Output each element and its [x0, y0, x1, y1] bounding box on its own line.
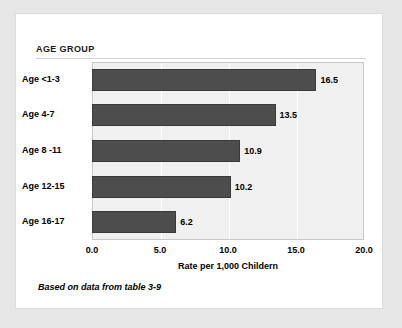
x-axis-tick-label: 10.0 [219, 245, 237, 255]
category-label: Age 12-15 [16, 181, 86, 191]
chart-footnote: Based on data from table 3-9 [38, 282, 161, 292]
x-axis-tick-label: 5.0 [154, 245, 167, 255]
bar-value-label: 10.2 [235, 182, 253, 192]
chart-page: AGE GROUP Age <1-3Age 4-7Age 8 -11Age 12… [0, 0, 402, 328]
x-axis-tick-label: 15.0 [287, 245, 305, 255]
bar-row: 16.5 [92, 62, 364, 98]
category-label: Age 16-17 [16, 216, 86, 226]
bar-row: 6.2 [92, 204, 364, 240]
bar-value-label: 6.2 [180, 217, 193, 227]
category-label: Age 8 -11 [16, 145, 86, 155]
bar-value-label: 16.5 [320, 75, 338, 85]
category-label: Age <1-3 [16, 74, 86, 84]
chart-card: AGE GROUP Age <1-3Age 4-7Age 8 -11Age 12… [16, 14, 382, 308]
bar-value-label: 13.5 [280, 110, 298, 120]
x-axis-tick-label: 20.0 [355, 245, 373, 255]
x-axis-tick-label: 0.0 [86, 245, 99, 255]
bar-chart: Age <1-3Age 4-7Age 8 -11Age 12-15Age 16-… [16, 14, 382, 308]
bar-value-label: 10.9 [244, 146, 262, 156]
bar: 13.5 [92, 104, 276, 126]
bar: 10.9 [92, 140, 240, 162]
category-label: Age 4-7 [16, 109, 86, 119]
bar: 10.2 [92, 176, 231, 198]
bar: 6.2 [92, 211, 176, 233]
x-axis-label: Rate per 1,000 Childern [92, 261, 364, 271]
bar-row: 10.9 [92, 133, 364, 169]
bar-row: 13.5 [92, 98, 364, 134]
bar-row: 10.2 [92, 169, 364, 205]
bar: 16.5 [92, 69, 316, 91]
